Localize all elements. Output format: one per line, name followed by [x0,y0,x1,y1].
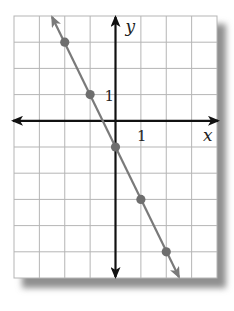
data-point [86,90,95,99]
data-point [111,142,120,151]
data-point [162,247,171,256]
x-axis-label: x [203,125,213,145]
y-tick-label-1: 1 [105,87,115,105]
coordinate-plane: yx11 [0,0,234,311]
x-tick-label-1: 1 [137,127,147,145]
data-point [60,38,69,47]
y-axis-label: y [125,16,136,36]
data-point [136,195,145,204]
